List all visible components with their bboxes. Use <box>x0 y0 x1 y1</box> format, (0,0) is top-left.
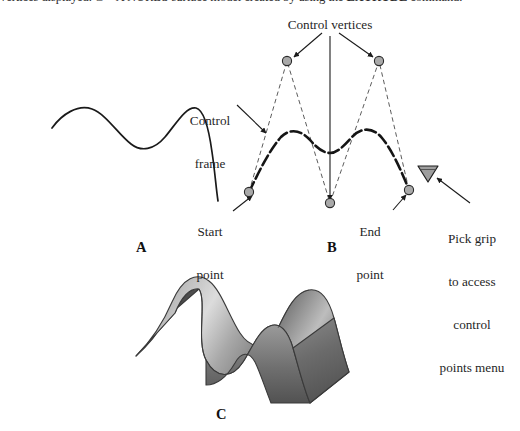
leader-control-vertices-left <box>294 33 322 57</box>
figure-letter-a: A <box>136 239 146 256</box>
label-pick-grip-line1: Pick grip <box>428 232 516 246</box>
figure-letter-c: C <box>216 406 226 423</box>
panel-c-surface <box>136 277 349 403</box>
control-vertex-upper-right[interactable] <box>374 56 383 65</box>
label-control-frame-line1: Control <box>178 114 242 128</box>
label-start-point-line1: Start <box>185 225 235 239</box>
label-pick-grip-line3: control <box>428 318 516 332</box>
leader-control-vertices-right <box>339 33 373 57</box>
figure-letter-b: B <box>327 239 337 256</box>
control-frame-polyline <box>249 61 409 203</box>
control-vertex-end-point[interactable] <box>404 185 413 194</box>
label-start-point-line2: point <box>185 268 235 282</box>
label-end-point: End point <box>347 196 393 311</box>
panel-b-curve <box>249 130 409 192</box>
label-pick-grip: Pick grip to access control points menu <box>428 203 516 405</box>
nurbs-curve-b <box>249 130 409 192</box>
control-vertex-start-point[interactable] <box>244 187 253 196</box>
leader-end-point <box>393 195 406 210</box>
pick-grip-icon[interactable] <box>418 166 438 182</box>
label-control-vertices: Control vertices <box>270 18 390 32</box>
label-end-point-line2: point <box>347 268 393 282</box>
panel-b-control-frame <box>249 61 409 203</box>
control-vertex-bottom-center[interactable] <box>325 198 334 207</box>
label-pick-grip-line2: to access <box>428 275 516 289</box>
label-pick-grip-line4: points menu <box>428 361 516 375</box>
grip-triangle-shape <box>418 166 438 182</box>
panel-b-control-vertices <box>244 56 413 207</box>
label-start-point: Start point <box>185 196 235 311</box>
leader-pick-grip <box>437 178 470 203</box>
label-control-frame: Control frame <box>178 85 242 200</box>
label-end-point-line1: End <box>347 225 393 239</box>
nurbs-figure: vertices displayed. C—A NURBS surface mo… <box>0 0 520 431</box>
control-vertex-upper-left[interactable] <box>282 56 291 65</box>
label-control-frame-line2: frame <box>178 157 242 171</box>
panel-b-leaders <box>233 33 470 211</box>
